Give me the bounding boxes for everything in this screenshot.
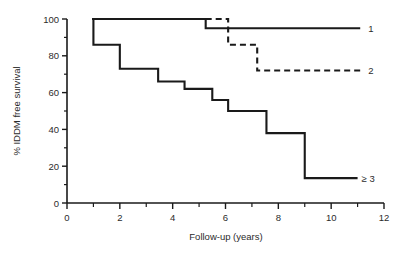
x-axis: 024681012 xyxy=(64,203,389,223)
series-label-2: 2 xyxy=(368,65,373,76)
y-axis-tick-label: 0 xyxy=(54,198,59,209)
x-axis-tick-label: 10 xyxy=(326,212,337,223)
y-axis-title: % IDDM free survival xyxy=(11,66,22,155)
y-axis-tick-label: 80 xyxy=(48,50,59,61)
survival-chart: 020406080100 024681012 12≥ 3 % IDDM free… xyxy=(0,0,407,253)
y-axis-tick-label: 60 xyxy=(48,87,59,98)
series-line-2 xyxy=(206,19,361,71)
x-axis-tick-label: 2 xyxy=(117,212,122,223)
y-axis-tick-label: 40 xyxy=(48,124,59,135)
x-axis-tick-label: 0 xyxy=(64,212,69,223)
x-axis-title: Follow-up (years) xyxy=(189,231,262,242)
x-axis-tick-label: 12 xyxy=(379,212,390,223)
series-label-1: 1 xyxy=(368,23,373,34)
chart-canvas: 020406080100 024681012 12≥ 3 % IDDM free… xyxy=(0,0,407,253)
y-axis-tick-label: 20 xyxy=(48,161,59,172)
y-axis-tick-label: 100 xyxy=(43,14,59,25)
series-line-1 xyxy=(92,19,360,28)
series-line-3plus xyxy=(92,19,357,178)
series-label-3plus: ≥ 3 xyxy=(362,173,375,184)
y-axis: 020406080100 xyxy=(43,14,67,209)
x-axis-tick-label: 8 xyxy=(276,212,281,223)
series-lines xyxy=(92,19,360,178)
x-axis-tick-label: 6 xyxy=(223,212,228,223)
series-labels: 12≥ 3 xyxy=(362,23,375,184)
x-axis-tick-label: 4 xyxy=(170,212,175,223)
